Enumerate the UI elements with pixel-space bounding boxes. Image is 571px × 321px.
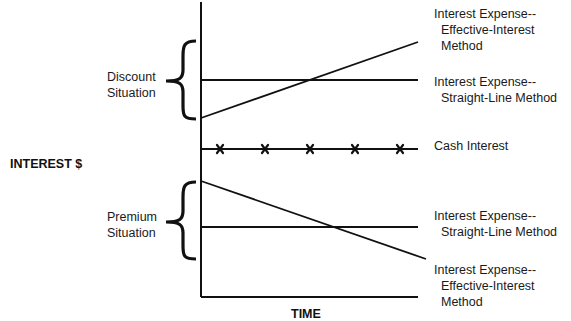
label-line: Interest Expense-- <box>434 6 536 22</box>
discount-straight-label: Interest Expense-- Straight-Line Method <box>434 74 557 106</box>
label-line: Method <box>434 38 536 54</box>
premium-situation-label: Premium Situation <box>107 209 157 241</box>
label-line: Effective-Interest <box>434 22 536 38</box>
label-line: Straight-Line Method <box>434 224 557 240</box>
discount-effective-label: Interest Expense-- Effective-Interest Me… <box>434 6 536 54</box>
label-line: Interest Expense-- <box>434 262 536 278</box>
y-axis-title: INTEREST $ <box>10 157 82 171</box>
discount-brace-icon <box>166 41 196 119</box>
label-line: Interest Expense-- <box>434 208 557 224</box>
label-line: Interest Expense-- <box>434 74 557 90</box>
discount-label-line1: Discount <box>107 69 156 85</box>
label-line: Method <box>434 294 536 310</box>
premium-brace-icon <box>166 182 196 259</box>
premium-effective-label: Interest Expense-- Effective-Interest Me… <box>434 262 536 310</box>
label-line: Effective-Interest <box>434 278 536 294</box>
premium-label-line1: Premium <box>107 209 157 225</box>
premium-label-line2: Situation <box>107 225 157 241</box>
discount-situation-label: Discount Situation <box>107 69 156 101</box>
premium-effective-interest-series <box>201 181 426 259</box>
cash-interest-label: Cash Interest <box>434 138 508 154</box>
premium-straight-label: Interest Expense-- Straight-Line Method <box>434 208 557 240</box>
label-line: Straight-Line Method <box>434 90 557 106</box>
discount-label-line2: Situation <box>107 85 156 101</box>
x-axis-title: TIME <box>291 307 321 321</box>
